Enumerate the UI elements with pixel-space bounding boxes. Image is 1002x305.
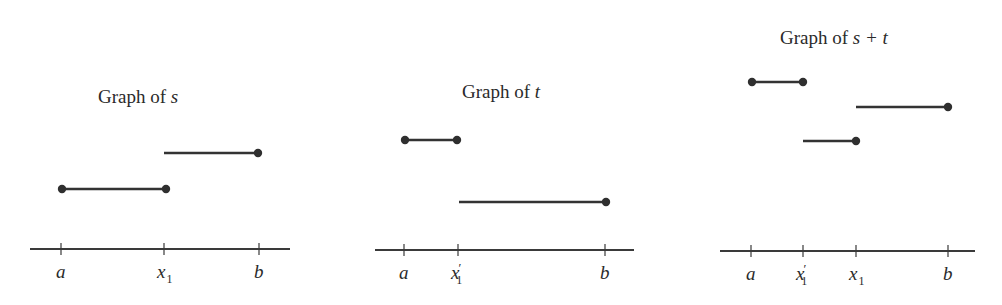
tick-label-main: b	[943, 263, 953, 284]
panel-title: Graph of s	[98, 86, 178, 107]
step-segment	[803, 137, 860, 145]
title-variable: t	[535, 81, 541, 102]
tick-label-main: a	[56, 261, 66, 282]
title-prefix: Graph of	[98, 86, 171, 107]
title-variable: s + t	[853, 27, 889, 48]
step-segment	[164, 149, 262, 157]
endpoint-dot	[453, 136, 461, 144]
tick-label-b: b	[600, 262, 610, 283]
panel-graph-of-s-plus-t: Graph of s + tax′1x1b	[720, 27, 975, 288]
tick-label-main: x	[848, 263, 858, 284]
step-segment	[856, 103, 952, 111]
tick-label-x1-prime: x′1	[795, 261, 807, 288]
tick-label-x1: x1	[156, 261, 172, 286]
endpoint-dot	[254, 149, 262, 157]
tick-label-main: x	[156, 261, 166, 282]
endpoint-dot	[799, 78, 807, 86]
step-function-figure: Graph of sax1b Graph of tax′1b Graph of …	[0, 0, 1002, 305]
step-segment	[58, 185, 170, 193]
panel-title: Graph of t	[462, 81, 541, 102]
endpoint-dot	[748, 78, 756, 86]
tick-label-main: a	[399, 262, 409, 283]
endpoint-dot	[944, 103, 952, 111]
tick-label-main: b	[254, 261, 264, 282]
step-segment	[401, 136, 461, 144]
tick-label-subscript: 1	[166, 272, 172, 286]
title-prefix: Graph of	[462, 81, 535, 102]
tick-label-subscript: 1	[456, 273, 462, 287]
step-segment	[459, 198, 610, 206]
title-variable: s	[171, 86, 178, 107]
panel-graph-of-t: Graph of tax′1b	[375, 81, 634, 287]
step-segment	[748, 78, 807, 86]
endpoint-dot	[401, 136, 409, 144]
tick-label-subscript: 1	[858, 274, 864, 288]
endpoint-dot	[58, 185, 66, 193]
tick-label-a: a	[399, 262, 409, 283]
tick-label-subscript: 1	[801, 274, 807, 288]
figure-canvas: Graph of sax1b Graph of tax′1b Graph of …	[0, 0, 1002, 305]
tick-label-main: b	[600, 262, 610, 283]
tick-label-x1-prime: x′1	[450, 260, 462, 287]
panel-graph-of-s: Graph of sax1b	[30, 86, 290, 286]
panel-title: Graph of s + t	[780, 27, 889, 48]
tick-label-x1: x1	[848, 263, 864, 288]
tick-label-main: a	[746, 263, 756, 284]
tick-label-b: b	[254, 261, 264, 282]
endpoint-dot	[852, 137, 860, 145]
tick-label-a: a	[56, 261, 66, 282]
endpoint-dot	[162, 185, 170, 193]
title-prefix: Graph of	[780, 27, 853, 48]
tick-label-a: a	[746, 263, 756, 284]
endpoint-dot	[602, 198, 610, 206]
tick-label-b: b	[943, 263, 953, 284]
